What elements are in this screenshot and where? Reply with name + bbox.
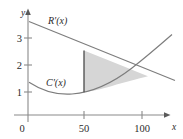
y-tick-label-1: 1 [17,87,22,98]
origin-label: 0 [19,123,24,134]
y-tick-label-3: 3 [17,33,22,44]
y-axis-label: y [20,8,26,18]
curve-label-c-prime: C'(x) [46,77,67,89]
x-axis-arrow [164,112,171,118]
y-axis-arrow [25,9,31,16]
x-axis-label: x [171,122,177,132]
curve-label-r-prime: R'(x) [47,15,68,27]
x-tick-label-50: 50 [79,123,90,134]
figure-container: 3 2 1 50 100 0 y x R'(x) C'(x) [0,0,183,139]
graph-canvas: 3 2 1 50 100 0 y x R'(x) C'(x) [0,0,183,139]
x-tick-label-100: 100 [134,123,150,134]
y-tick-label-2: 2 [17,60,22,71]
